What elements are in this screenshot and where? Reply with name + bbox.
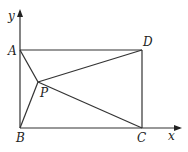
point-label-P: P (39, 86, 49, 100)
point-label-B: B (15, 131, 25, 145)
point-label-C: C (137, 131, 146, 145)
segment-PB (20, 82, 38, 128)
geometry-diagram: y x A D P B C (0, 0, 188, 152)
x-axis-label: x (168, 129, 175, 143)
point-label-D: D (142, 35, 153, 49)
segment-PD (38, 50, 142, 82)
segment-PC (38, 82, 142, 128)
segment-PA (20, 50, 38, 82)
y-axis-label: y (7, 9, 15, 23)
point-label-A: A (7, 44, 17, 58)
